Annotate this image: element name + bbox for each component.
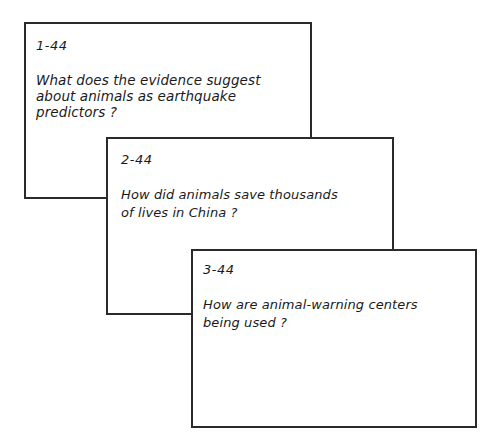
card-label: 2-44 <box>121 152 153 167</box>
question-line: How are animal-warning centers <box>203 296 418 314</box>
card-question: How are animal-warning centers being use… <box>203 296 418 332</box>
card-question: How did animals save thousands of lives … <box>121 186 338 222</box>
card-label: 3-44 <box>203 262 235 277</box>
question-line: of lives in China ? <box>121 204 338 222</box>
question-line: about animals as earthquake <box>36 88 261 104</box>
card-label: 1-44 <box>36 38 68 53</box>
question-line: being used ? <box>203 314 418 332</box>
question-line: What does the evidence suggest <box>36 72 261 88</box>
note-card-3: 3-44 How are animal-warning centers bein… <box>191 249 477 428</box>
question-line: How did animals save thousands <box>121 186 338 204</box>
question-line: predictors ? <box>36 104 261 120</box>
card-question: What does the evidence suggest about ani… <box>36 72 261 120</box>
